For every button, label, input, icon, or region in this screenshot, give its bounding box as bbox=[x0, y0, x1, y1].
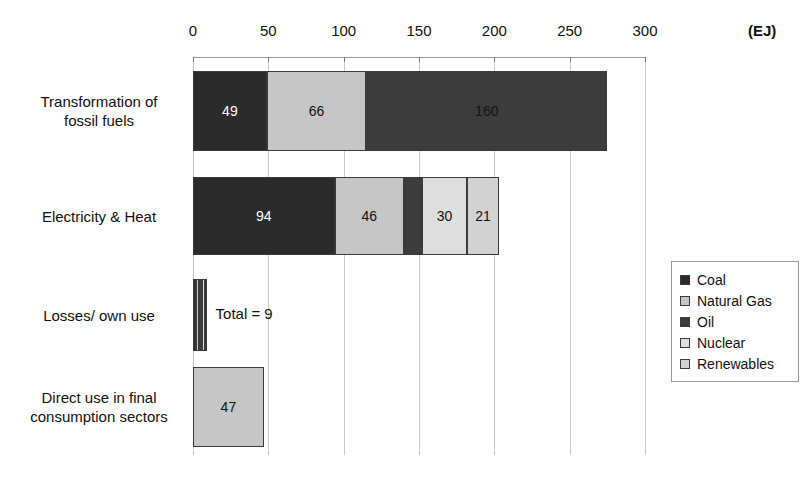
stacked-bar-chart: (EJ) 050100150200250300 4966160944612302… bbox=[0, 0, 811, 484]
legend: CoalNatural GasOilNuclearRenewables bbox=[671, 261, 799, 382]
bar-segment[interactable]: 46 bbox=[335, 177, 404, 255]
category-label-line: Direct use in final bbox=[9, 388, 189, 407]
x-axis-tick-mark bbox=[494, 57, 495, 62]
bar-segment-value-label: 21 bbox=[475, 208, 491, 224]
category-label: Direct use in finalconsumption sectors bbox=[9, 388, 189, 426]
bar-segment[interactable]: 30 bbox=[422, 177, 467, 255]
gridline bbox=[645, 57, 646, 455]
bar-total-annotation: Total = 9 bbox=[216, 305, 273, 322]
legend-item-label: Coal bbox=[697, 272, 726, 288]
bar-row[interactable]: 9446123021 bbox=[193, 177, 645, 255]
bar-row[interactable]: Total = 9 bbox=[193, 279, 645, 351]
category-label: Losses/ own use bbox=[9, 306, 189, 325]
category-label-line: consumption sectors bbox=[9, 407, 189, 426]
x-axis-tick-label: 0 bbox=[189, 22, 197, 39]
category-label: Electricity & Heat bbox=[9, 207, 189, 226]
legend-item-label: Natural Gas bbox=[697, 293, 772, 309]
bar-segment[interactable]: 94 bbox=[193, 177, 335, 255]
legend-item-label: Nuclear bbox=[697, 335, 745, 351]
x-axis-tick-mark bbox=[268, 57, 269, 62]
legend-swatch-icon bbox=[680, 317, 690, 327]
legend-item[interactable]: Oil bbox=[680, 311, 792, 332]
bar-segment-value-label: 30 bbox=[437, 208, 453, 224]
x-axis-tick-label: 200 bbox=[482, 22, 507, 39]
x-axis-tick-label: 300 bbox=[632, 22, 657, 39]
bar-segment[interactable]: 12 bbox=[404, 177, 422, 255]
legend-item-label: Oil bbox=[697, 314, 714, 330]
category-label-line: Electricity & Heat bbox=[9, 207, 189, 226]
legend-swatch-icon bbox=[680, 338, 690, 348]
bar-segment[interactable]: 49 bbox=[193, 71, 267, 151]
category-label-line: fossil fuels bbox=[9, 111, 189, 130]
legend-item[interactable]: Coal bbox=[680, 269, 792, 290]
bar-segment-value-label: 160 bbox=[475, 103, 498, 119]
x-axis-tick-mark bbox=[645, 57, 646, 62]
bar-row[interactable]: 4966160 bbox=[193, 71, 645, 151]
category-label-line: Transformation of bbox=[9, 92, 189, 111]
x-axis-tick-mark bbox=[570, 57, 571, 62]
bar-segment[interactable]: 47 bbox=[193, 367, 264, 447]
x-axis-tick-label: 250 bbox=[557, 22, 582, 39]
x-axis-tick-label: 50 bbox=[260, 22, 277, 39]
legend-item-label: Renewables bbox=[697, 356, 774, 372]
bar-row[interactable]: 47 bbox=[193, 367, 645, 447]
bar-segment-value-label: 94 bbox=[256, 208, 272, 224]
bar-segment-value-label: 46 bbox=[361, 208, 377, 224]
x-axis-tick-label: 150 bbox=[406, 22, 431, 39]
bar-segment[interactable] bbox=[205, 279, 207, 351]
category-label: Transformation offossil fuels bbox=[9, 92, 189, 130]
legend-item[interactable]: Nuclear bbox=[680, 332, 792, 353]
legend-item[interactable]: Renewables bbox=[680, 353, 792, 374]
bar-segment-value-label: 49 bbox=[222, 103, 238, 119]
bar-segment-value-label: 66 bbox=[309, 103, 325, 119]
legend-swatch-icon bbox=[680, 275, 690, 285]
legend-item[interactable]: Natural Gas bbox=[680, 290, 792, 311]
category-label-line: Losses/ own use bbox=[9, 306, 189, 325]
x-axis-tick-mark bbox=[344, 57, 345, 62]
bar-segment[interactable]: 160 bbox=[366, 71, 607, 151]
plot-area: 49661609446123021Total = 947 bbox=[193, 57, 645, 455]
bar-segment[interactable]: 21 bbox=[467, 177, 499, 255]
x-axis-unit-label: (EJ) bbox=[748, 22, 776, 39]
x-axis-tick-labels: (EJ) 050100150200250300 bbox=[0, 22, 811, 44]
x-axis-tick-label: 100 bbox=[331, 22, 356, 39]
legend-swatch-icon bbox=[680, 296, 690, 306]
bar-segment[interactable]: 66 bbox=[267, 71, 366, 151]
x-axis-tick-mark bbox=[419, 57, 420, 62]
x-axis-tick-mark bbox=[193, 57, 194, 62]
legend-swatch-icon bbox=[680, 359, 690, 369]
bar-segment-value-label: 47 bbox=[221, 399, 237, 415]
